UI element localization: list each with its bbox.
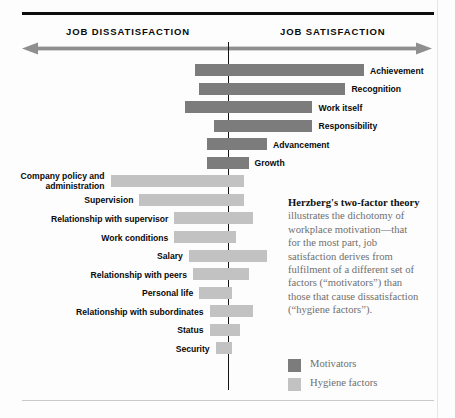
bar-label-relationship-with-subordinates: Relationship with subordinates (0, 307, 204, 317)
legend-item-motivator: Motivators (288, 357, 428, 376)
bar-label-responsibility: Responsibility (319, 121, 378, 131)
bar-security (216, 342, 233, 354)
bar-label-achievement: Achievement (370, 66, 424, 76)
legend: MotivatorsHygiene factors (288, 357, 428, 395)
bar-personal-life (199, 287, 232, 299)
bar-label-work-conditions: Work conditions (0, 233, 168, 243)
bar-label-status: Status (0, 325, 204, 335)
note-body: illustrates the dichotomy of workplace m… (288, 210, 418, 315)
bar-recognition (199, 83, 345, 95)
bar-relationship-with-subordinates (210, 305, 253, 317)
bar-salary (189, 250, 267, 262)
bar-relationship-with-peers (193, 268, 249, 280)
bar-work-conditions (174, 231, 236, 243)
bar-label-recognition: Recognition (351, 84, 401, 94)
bar-growth (207, 157, 248, 169)
legend-label-hygiene: Hygiene factors (310, 377, 377, 388)
bar-work-itself (185, 101, 313, 113)
page-gutter-line (437, 0, 438, 418)
bar-status (210, 324, 241, 336)
legend-item-hygiene: Hygiene factors (288, 376, 428, 395)
bar-label-company-policy-and-administration: Company policy and administration (1, 171, 105, 191)
bar-label-personal-life: Personal life (0, 288, 193, 298)
bar-label-relationship-with-supervisor: Relationship with supervisor (0, 214, 168, 224)
legend-swatch-motivator (288, 359, 301, 372)
bar-label-salary: Salary (0, 251, 183, 261)
bar-supervision (139, 194, 244, 206)
bar-label-work-itself: Work itself (319, 103, 363, 113)
bottom-rule (22, 400, 434, 401)
bar-label-advancement: Advancement (273, 140, 329, 150)
bar-responsibility (214, 120, 313, 132)
bar-company-policy-and-administration (111, 175, 245, 187)
bar-relationship-with-supervisor (174, 212, 252, 224)
bar-label-relationship-with-peers: Relationship with peers (0, 270, 187, 280)
bar-label-security: Security (0, 344, 210, 354)
legend-swatch-hygiene (288, 378, 301, 391)
explanatory-note: Herzberg's two-factor theory illustrates… (288, 196, 422, 317)
bar-label-supervision: Supervision (0, 195, 133, 205)
bar-label-growth: Growth (255, 158, 285, 168)
bar-advancement (207, 138, 267, 150)
legend-label-motivator: Motivators (310, 358, 357, 369)
herzberg-two-factor-figure: JOB DISSATISFACTION JOB SATISFACTION Ach… (0, 0, 455, 418)
bar-achievement (195, 64, 364, 76)
note-lead: Herzberg's two-factor theory (288, 197, 420, 208)
